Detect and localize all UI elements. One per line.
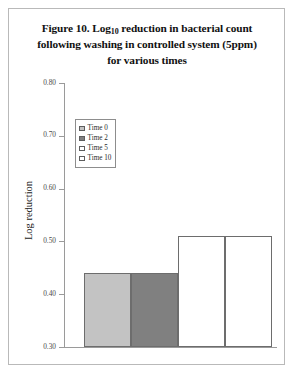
bars-layer [9, 9, 286, 366]
legend-item: Time 5 [79, 144, 111, 154]
legend-item: Time 0 [79, 124, 111, 134]
bar-time-10 [225, 236, 272, 347]
bar-time-5 [178, 236, 225, 347]
legend-swatch-icon [79, 126, 85, 132]
legend-item-label: Time 0 [88, 125, 108, 132]
plot-area: 0.800.700.600.500.400.30 Log reduction T… [9, 9, 286, 366]
chart-legend: Time 0Time 2Time 5Time 10 [75, 119, 116, 168]
legend-item-label: Time 10 [88, 155, 112, 162]
legend-swatch-icon [79, 156, 85, 162]
bar-time-2 [131, 273, 178, 347]
legend-swatch-icon [79, 146, 85, 152]
legend-item: Time 2 [79, 134, 111, 144]
legend-swatch-icon [79, 136, 85, 142]
legend-item: Time 10 [79, 154, 111, 164]
legend-item-label: Time 2 [88, 135, 108, 142]
legend-item-label: Time 5 [88, 145, 108, 152]
bar-time-0 [84, 273, 131, 347]
figure-frame: Figure 10. Log10 reduction in bacterial … [8, 8, 285, 365]
